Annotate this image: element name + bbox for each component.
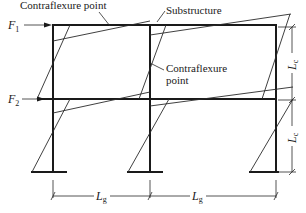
beam-moment-mid-right — [150, 87, 293, 106]
label-contraflexure-mid-line2: point — [166, 74, 189, 86]
column-moment-bottom-center — [128, 99, 169, 172]
force-f1: F1 — [7, 18, 52, 34]
leader-substructure — [157, 11, 165, 22]
column-moment-bottom-left — [32, 99, 70, 172]
label-contraflexure-mid-line1: Contraflexure — [166, 62, 227, 74]
dimension-column-height: Lc Lc — [278, 24, 300, 175]
force-f1-arrow-icon — [44, 23, 52, 28]
force-f2-arrow-icon — [37, 97, 45, 102]
label-contraflexure-top: Contraflexure point — [20, 0, 106, 11]
label-substructure: Substructure — [166, 4, 222, 16]
label-lg-right: Lg — [191, 189, 203, 204]
dimension-beam-length: Lg Lg — [51, 180, 278, 204]
leader-contraflexure-mid — [150, 63, 164, 70]
column-moment-top-center — [139, 25, 166, 99]
moment-diagram — [32, 14, 293, 172]
force-f1-label: F1 — [7, 18, 19, 34]
annotations: Contraflexure point Substructure Contraf… — [20, 0, 227, 86]
beam-moment-mid-left — [53, 92, 150, 113]
force-f2-label: F2 — [7, 92, 19, 108]
leader-contraflexure-top — [99, 12, 110, 26]
frame-structure — [32, 25, 278, 172]
frame-diagram: F1 F2 Contraflexure point Substructure C… — [0, 0, 306, 213]
label-lg-left: Lg — [95, 189, 107, 204]
